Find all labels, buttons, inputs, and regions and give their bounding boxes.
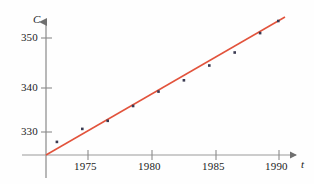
x-tick-label-1980: 1980 (138, 160, 161, 172)
y-tick-label-330: 330 (8, 125, 38, 137)
data-point (157, 90, 160, 93)
x-tick-label-1985: 1985 (202, 160, 225, 172)
data-point (56, 141, 59, 144)
x-axis-label: t (301, 158, 304, 170)
regression-line (46, 17, 285, 155)
x-tick-label-1975: 1975 (74, 160, 97, 172)
y-axis-label: C (33, 13, 40, 25)
chart-figure: 350 340 330 1975 1980 1985 1990 C t (0, 0, 314, 184)
y-tick-label-340: 340 (8, 81, 38, 93)
data-point-markers (56, 20, 280, 144)
data-point (106, 120, 109, 123)
data-point (233, 51, 236, 54)
data-point (132, 105, 135, 108)
x-tick-label-1990: 1990 (265, 160, 288, 172)
data-point (277, 20, 280, 23)
data-point (259, 32, 262, 35)
data-point (183, 79, 186, 82)
data-point (208, 64, 211, 67)
y-tick-label-350: 350 (8, 31, 38, 43)
data-point (81, 128, 84, 131)
scatter-plot-canvas (0, 0, 314, 184)
